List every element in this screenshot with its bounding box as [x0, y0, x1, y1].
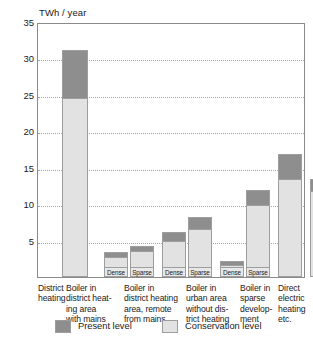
- bar-segment-conservation-level: [311, 191, 313, 276]
- legend-item-present-level: Present level: [55, 320, 132, 333]
- chart-legend: Present level Conservation level: [37, 320, 305, 340]
- y-tick-label: 10: [14, 200, 34, 210]
- bar-segment-present-level: [189, 218, 211, 229]
- category-label-line: without dis-: [186, 304, 242, 314]
- legend-label-conservation-level: Conservation level: [185, 321, 261, 332]
- bar-segment-present-level: [63, 51, 87, 98]
- category-label-1: Boiler indistrict heat-ing areawith main…: [66, 283, 122, 325]
- category-label-line: heating: [278, 304, 312, 314]
- category-label-line: sparse: [240, 293, 278, 303]
- category-label-line: area, remote: [124, 304, 186, 314]
- bar-segment-present-level: [247, 191, 269, 205]
- category-label-4: Boiler insparsedevelop-ment: [240, 283, 278, 325]
- bar-segment-conservation-level: [63, 98, 87, 276]
- bar-segment-conservation-level: [247, 205, 269, 276]
- category-label-line: Boiler in: [186, 283, 242, 293]
- category-label-line: district heat-: [66, 293, 122, 303]
- bar-sublabel-dense: Dense: [104, 267, 128, 277]
- category-label-line: ing area: [66, 304, 122, 314]
- y-tick-label: 5: [14, 237, 34, 247]
- legend-swatch-conservation-level: [162, 320, 178, 333]
- category-label-2: Boiler indistrict heatingarea, remotefro…: [124, 283, 186, 325]
- legend-item-conservation-level: Conservation level: [162, 320, 261, 333]
- y-tick-label: 35: [14, 18, 34, 28]
- bar-sublabel-dense: Dense: [220, 267, 244, 277]
- plot-area: DenseSparseDenseSparseDenseSparse: [37, 23, 305, 278]
- bar-sublabel-sparse: Sparse: [188, 267, 212, 277]
- bar-segment-present-level: [279, 155, 301, 179]
- category-label-line: Direct: [278, 283, 312, 293]
- bar-segment-conservation-level: [279, 179, 301, 276]
- bar-segment-present-level: [163, 233, 185, 241]
- category-label-line: district heating: [124, 293, 186, 303]
- legend-swatch-present-level: [55, 320, 71, 333]
- category-label-line: Boiler in: [240, 283, 278, 293]
- bar-sublabel-dense: Dense: [162, 267, 186, 277]
- y-axis-title: TWh / year: [39, 7, 86, 18]
- bar: [278, 154, 302, 277]
- category-label-line: urban area: [186, 293, 242, 303]
- category-label-line: electric: [278, 293, 312, 303]
- bar-segment-present-level: [311, 180, 313, 191]
- y-tick-label: 25: [14, 91, 34, 101]
- bar: [310, 179, 313, 277]
- bar: [62, 50, 88, 277]
- bar-sublabel-sparse: Sparse: [130, 267, 154, 277]
- category-label-line: develop-: [240, 304, 278, 314]
- category-label-5: Directelectricheatingetc.: [278, 283, 312, 325]
- category-label-line: Boiler in: [124, 283, 186, 293]
- bar: [246, 190, 270, 277]
- category-label-line: Boiler in: [66, 283, 122, 293]
- y-tick-label: 30: [14, 54, 34, 64]
- y-tick-label: 15: [14, 164, 34, 174]
- y-tick-label: 20: [14, 127, 34, 137]
- chart-container: TWh / year DenseSparseDenseSparseDenseSp…: [0, 0, 313, 356]
- legend-label-present-level: Present level: [78, 321, 132, 332]
- category-label-3: Boiler inurban areawithout dis-trict hea…: [186, 283, 242, 325]
- bar-sublabel-sparse: Sparse: [246, 267, 270, 277]
